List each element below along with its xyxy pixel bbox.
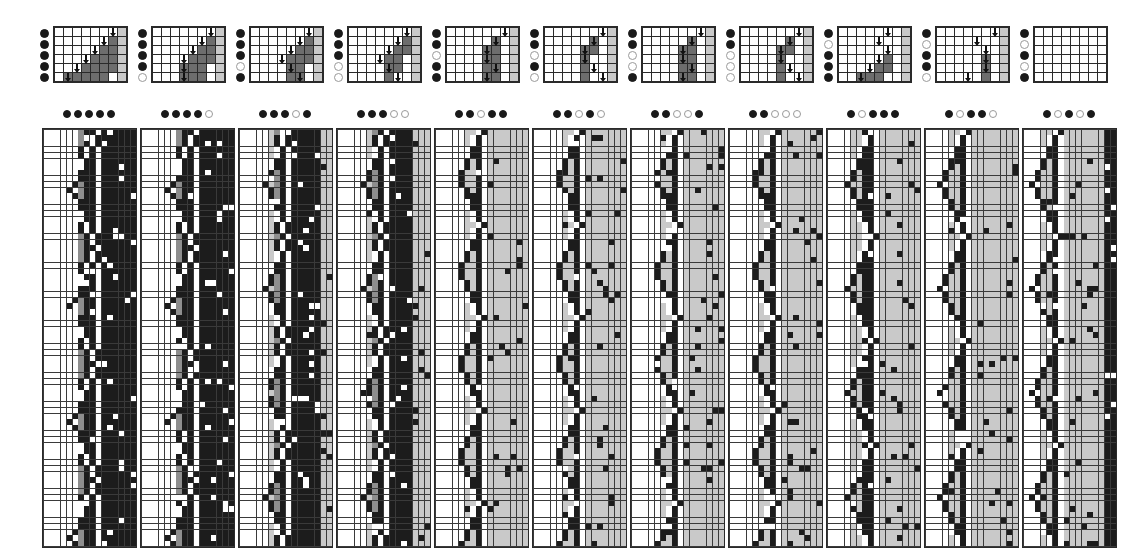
evolution-cell <box>517 188 522 193</box>
evolution-cell <box>396 321 401 326</box>
evolution-cell <box>782 234 787 239</box>
evolution-cell <box>171 460 176 465</box>
evolution-cell <box>205 332 210 337</box>
evolution-cell <box>637 477 642 482</box>
evolution-cell <box>943 390 948 395</box>
evolution-cell <box>274 159 279 164</box>
evolution-cell <box>1087 228 1092 233</box>
evolution-cell <box>517 535 522 540</box>
evolution-cell <box>655 495 660 500</box>
evolution-cell <box>159 506 164 511</box>
evolution-cell <box>436 390 441 395</box>
evolution-cell <box>949 130 954 135</box>
evolution-cell <box>563 153 568 158</box>
rule-cell <box>706 46 714 54</box>
evolution-cell <box>372 147 377 152</box>
rule-cell <box>1053 28 1061 36</box>
evolution-cell <box>327 228 332 233</box>
evolution-cell <box>637 530 642 535</box>
evolution-cell <box>355 292 360 297</box>
evolution-cell <box>171 373 176 378</box>
evolution-cell <box>327 443 332 448</box>
evolution-cell <box>915 153 920 158</box>
evolution-cell <box>586 130 591 135</box>
evolution-cell <box>862 240 867 245</box>
evolution-cell <box>782 483 787 488</box>
evolution-cell <box>113 489 118 494</box>
evolution-cell <box>401 153 406 158</box>
evolution-cell <box>943 240 948 245</box>
rule-cell <box>376 28 384 36</box>
evolution-cell <box>286 153 291 158</box>
evolution-cell <box>517 419 522 424</box>
evolution-cell <box>1047 373 1052 378</box>
evolution-cell <box>396 193 401 198</box>
evolution-cell <box>274 217 279 222</box>
evolution-cell <box>805 211 810 216</box>
evolution-cell <box>153 205 158 210</box>
rule-cell-arrow-icon <box>180 73 188 81</box>
rule-cell <box>652 46 660 54</box>
evolution-cell <box>817 489 822 494</box>
evolution-cell <box>753 466 758 471</box>
evolution-cell <box>811 176 816 181</box>
evolution-cell <box>1041 425 1046 430</box>
evolution-cell <box>828 176 833 181</box>
evolution-cell <box>1047 431 1052 436</box>
evolution-cell <box>857 182 862 187</box>
evolution-cell <box>1105 344 1110 349</box>
evolution-cell <box>309 211 314 216</box>
evolution-cell <box>470 211 475 216</box>
evolution-cell <box>811 350 816 355</box>
evolution-cell <box>637 147 642 152</box>
evolution-cell <box>49 512 54 517</box>
evolution-cell <box>1029 141 1034 146</box>
evolution-cell <box>678 477 683 482</box>
evolution-cell <box>782 205 787 210</box>
evolution-cell <box>401 199 406 204</box>
evolution-cell <box>251 251 256 256</box>
evolution-cell <box>868 373 873 378</box>
evolution-cell <box>1111 402 1116 407</box>
evolution-cell <box>897 483 902 488</box>
evolution-cell <box>713 309 718 314</box>
rule-cell <box>661 37 669 45</box>
evolution-cell <box>563 373 568 378</box>
rule-cell <box>189 73 197 81</box>
evolution-cell <box>1070 535 1075 540</box>
evolution-cell <box>735 443 740 448</box>
evolution-cell <box>661 414 666 419</box>
evolution-cell <box>793 298 798 303</box>
evolution-cell <box>880 431 885 436</box>
evolution-cell <box>44 373 49 378</box>
evolution-cell <box>534 176 539 181</box>
evolution-cell <box>517 489 522 494</box>
evolution-cell <box>321 524 326 529</box>
evolution-cell <box>1093 356 1098 361</box>
evolution-cell <box>361 321 366 326</box>
evolution-cell <box>937 524 942 529</box>
evolution-cell <box>937 274 942 279</box>
evolution-cell <box>67 327 72 332</box>
evolution-cell <box>539 153 544 158</box>
evolution-cell <box>436 419 441 424</box>
evolution-cell <box>891 361 896 366</box>
evolution-cell <box>315 153 320 158</box>
evolution-cell <box>776 530 781 535</box>
evolution-cell <box>597 164 602 169</box>
evolution-cell <box>857 460 862 465</box>
rule-cell <box>385 73 393 81</box>
evolution-cell <box>211 390 216 395</box>
evolution-cell <box>637 437 642 442</box>
evolution-cell <box>61 182 66 187</box>
evolution-cell <box>102 153 107 158</box>
evolution-cell <box>343 512 348 517</box>
evolution-cell <box>107 431 112 436</box>
evolution-cell <box>1105 245 1110 250</box>
evolution-cell <box>972 350 977 355</box>
evolution-cell <box>413 448 418 453</box>
evolution-cell <box>943 251 948 256</box>
evolution-cell <box>649 321 654 326</box>
header-dot-6-5 <box>597 110 605 118</box>
evolution-cell <box>915 327 920 332</box>
